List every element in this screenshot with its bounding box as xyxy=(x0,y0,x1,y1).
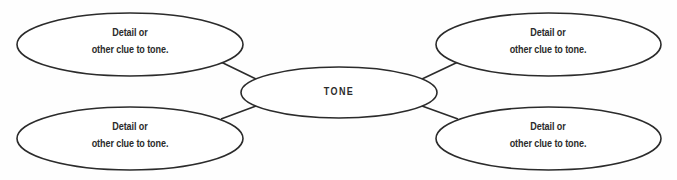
node-label-top-left: Detail or other clue to tone. xyxy=(44,24,216,58)
node-line2: other clue to tone. xyxy=(462,41,634,58)
connector-top-right xyxy=(422,62,458,79)
node-line1: Detail or xyxy=(44,118,216,135)
node-line1: Detail or xyxy=(462,118,634,135)
node-line2: other clue to tone. xyxy=(44,41,216,58)
connector-top-left xyxy=(221,62,256,79)
connector-bottom-right xyxy=(422,106,458,119)
node-line1: Detail or xyxy=(44,24,216,41)
connector-bottom-left xyxy=(221,106,256,119)
node-line2: other clue to tone. xyxy=(44,135,216,152)
node-label-top-right: Detail or other clue to tone. xyxy=(462,24,634,58)
node-label-bottom-left: Detail or other clue to tone. xyxy=(44,118,216,152)
node-line2: other clue to tone. xyxy=(462,135,634,152)
tone-web-diagram: Detail or other clue to tone. Detail or … xyxy=(0,0,677,180)
node-label-bottom-right: Detail or other clue to tone. xyxy=(462,118,634,152)
node-line1: Detail or xyxy=(462,24,634,41)
center-label: TONE xyxy=(296,85,382,97)
